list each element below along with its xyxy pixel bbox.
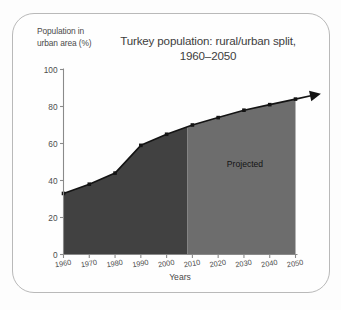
data-point-marker — [165, 132, 169, 136]
data-point-marker — [139, 144, 143, 148]
chart-plot-area: 0204060801001960197019801990200020102020… — [0, 0, 341, 310]
x-axis-tick-label: 2050 — [286, 258, 304, 269]
y-axis-tick-label: 0 — [53, 250, 58, 260]
x-axis-tick-label: 2040 — [261, 258, 279, 269]
data-point-marker — [268, 103, 272, 107]
y-axis-tick-label: 100 — [44, 65, 58, 75]
x-axis-tick-label: 2020 — [209, 258, 227, 269]
x-axis-tick-label: 2000 — [157, 258, 175, 269]
x-axis-tick-label: 1970 — [80, 258, 98, 269]
x-axis-tick-label: 2030 — [235, 258, 253, 269]
data-point-marker — [113, 171, 117, 175]
data-point-marker — [87, 182, 91, 186]
y-axis-tick-label: 20 — [48, 213, 58, 223]
x-axis-tick-label: 1990 — [132, 258, 150, 269]
area-region-actual — [64, 127, 188, 255]
data-point-marker — [216, 116, 220, 120]
y-axis-tick-label: 60 — [48, 139, 58, 149]
x-axis-tick-label: 2010 — [183, 258, 201, 269]
x-axis-label: Years — [130, 272, 230, 282]
chart-screenshot: Population in urban area (%) Turkey popu… — [0, 0, 341, 310]
y-axis-tick-label: 40 — [48, 176, 58, 186]
area-regions — [64, 99, 296, 254]
x-axis-tick-label: 1960 — [54, 258, 72, 269]
y-axis-tick-label: 80 — [48, 102, 58, 112]
data-point-marker — [242, 108, 246, 112]
projected-region-label: Projected — [205, 159, 285, 169]
x-axis-tick-label: 1980 — [106, 258, 124, 269]
data-point-marker — [191, 123, 195, 127]
trend-arrow-head — [309, 91, 321, 102]
